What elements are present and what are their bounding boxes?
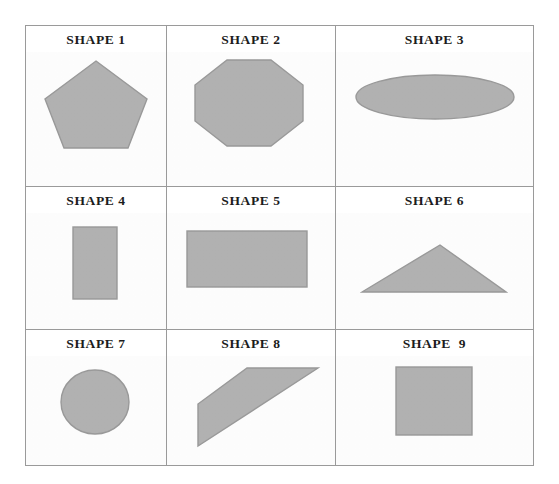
shape-label-7: SHAPE 7 [26, 330, 166, 352]
ellipse-shape [354, 72, 516, 122]
shape-stage-3 [336, 52, 533, 186]
pentagon-shape [42, 58, 150, 150]
shape-label-1: SHAPE 1 [26, 26, 166, 48]
wide-rectangle-shape [185, 229, 309, 289]
shape-cell-8: SHAPE 8 [167, 330, 336, 466]
circle-shape [59, 368, 131, 436]
shape-label-3: SHAPE 3 [336, 26, 533, 48]
shape-label-2: SHAPE 2 [167, 26, 335, 48]
tall-rectangle-shape [71, 225, 119, 301]
shape-cell-4: SHAPE 4 [26, 187, 167, 330]
square-shape [394, 365, 474, 437]
triangle-shape [360, 243, 508, 295]
shape-cell-6: SHAPE 6 [336, 187, 534, 330]
shape-label-4: SHAPE 4 [26, 187, 166, 209]
shape-stage-7 [26, 356, 166, 465]
shape-stage-6 [336, 213, 533, 329]
shape-cell-2: SHAPE 2 [167, 26, 336, 187]
table-row: SHAPE 4 SHAPE 5 [26, 187, 534, 330]
shape-label-5: SHAPE 5 [167, 187, 335, 209]
shape-stage-8 [167, 356, 335, 465]
shape-cell-5: SHAPE 5 [167, 187, 336, 330]
shape-cell-9: SHAPE 9 [336, 330, 534, 466]
shape-grid-table: SHAPE 1 SHAPE 2 [25, 25, 534, 466]
shape-label-6: SHAPE 6 [336, 187, 533, 209]
shape-label-9: SHAPE 9 [336, 330, 533, 352]
table-row: SHAPE 1 SHAPE 2 [26, 26, 534, 187]
shape-cell-3: SHAPE 3 [336, 26, 534, 187]
shape-stage-4 [26, 213, 166, 329]
shape-stage-5 [167, 213, 335, 329]
quadrilateral-shape [176, 364, 322, 450]
shape-stage-1 [26, 52, 166, 186]
shape-stage-9 [336, 356, 533, 465]
shape-cell-1: SHAPE 1 [26, 26, 167, 187]
table-row: SHAPE 7 SHAPE 8 [26, 330, 534, 466]
shape-cell-7: SHAPE 7 [26, 330, 167, 466]
octagon-shape [193, 58, 305, 148]
shape-stage-2 [167, 52, 335, 186]
shape-label-8: SHAPE 8 [167, 330, 335, 352]
